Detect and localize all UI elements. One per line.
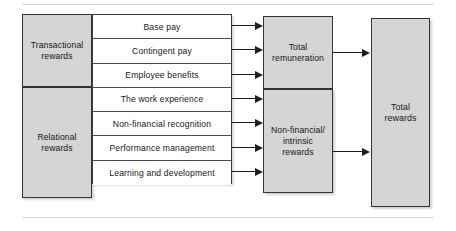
component-row-non-financial-recognition: Non-financial recognition [93, 112, 231, 136]
page-rule-top [22, 4, 434, 5]
arrow-total-remuneration-to-total-rewards [333, 48, 371, 57]
category-label-transactional-rewards: Transactional rewards [31, 40, 84, 62]
outcome-box-total-rewards: Total rewards [371, 18, 430, 207]
outcome-label-total-rewards: Total rewards [385, 102, 417, 124]
category-box-relational-rewards: Relational rewards [22, 87, 92, 198]
arrow-base-pay-to-total-remuneration [232, 21, 263, 30]
component-row-learning-and-development: Learning and development [93, 161, 231, 185]
arrow-learning-and-development-to-non-financial-intrinsic-rewards [232, 167, 263, 176]
component-row-the-work-experience: The work experience [93, 88, 231, 112]
component-row-employee-benefits: Employee benefits [93, 64, 231, 88]
component-row-base-pay: Base pay [93, 15, 231, 39]
page-rule-bottom [22, 217, 434, 218]
aggregation-label-total-remuneration: Total remuneration [272, 42, 324, 64]
category-box-transactional-rewards: Transactional rewards [22, 14, 92, 87]
component-row-contingent-pay: Contingent pay [93, 39, 231, 63]
aggregation-label-non-financial-intrinsic-rewards: Non-financial/ intrinsic rewards [271, 125, 325, 158]
arrow-non-financial-recognition-to-non-financial-intrinsic-rewards [232, 118, 263, 127]
arrow-non-financial-intrinsic-rewards-to-total-rewards [333, 147, 371, 156]
category-label-relational-rewards: Relational rewards [37, 132, 76, 154]
aggregation-box-non-financial-intrinsic-rewards: Non-financial/ intrinsic rewards [263, 89, 333, 193]
arrow-the-work-experience-to-non-financial-intrinsic-rewards [232, 94, 263, 103]
component-row-performance-management: Performance management [93, 136, 231, 160]
arrow-performance-management-to-non-financial-intrinsic-rewards [232, 143, 263, 152]
total-rewards-diagram: Transactional rewards Relational rewards… [0, 0, 456, 231]
arrow-contingent-pay-to-total-remuneration [232, 45, 263, 54]
aggregation-box-total-remuneration: Total remuneration [263, 16, 333, 89]
arrow-employee-benefits-to-total-remuneration [232, 70, 263, 79]
component-list: Base pay Contingent pay Employee benefit… [92, 14, 232, 184]
